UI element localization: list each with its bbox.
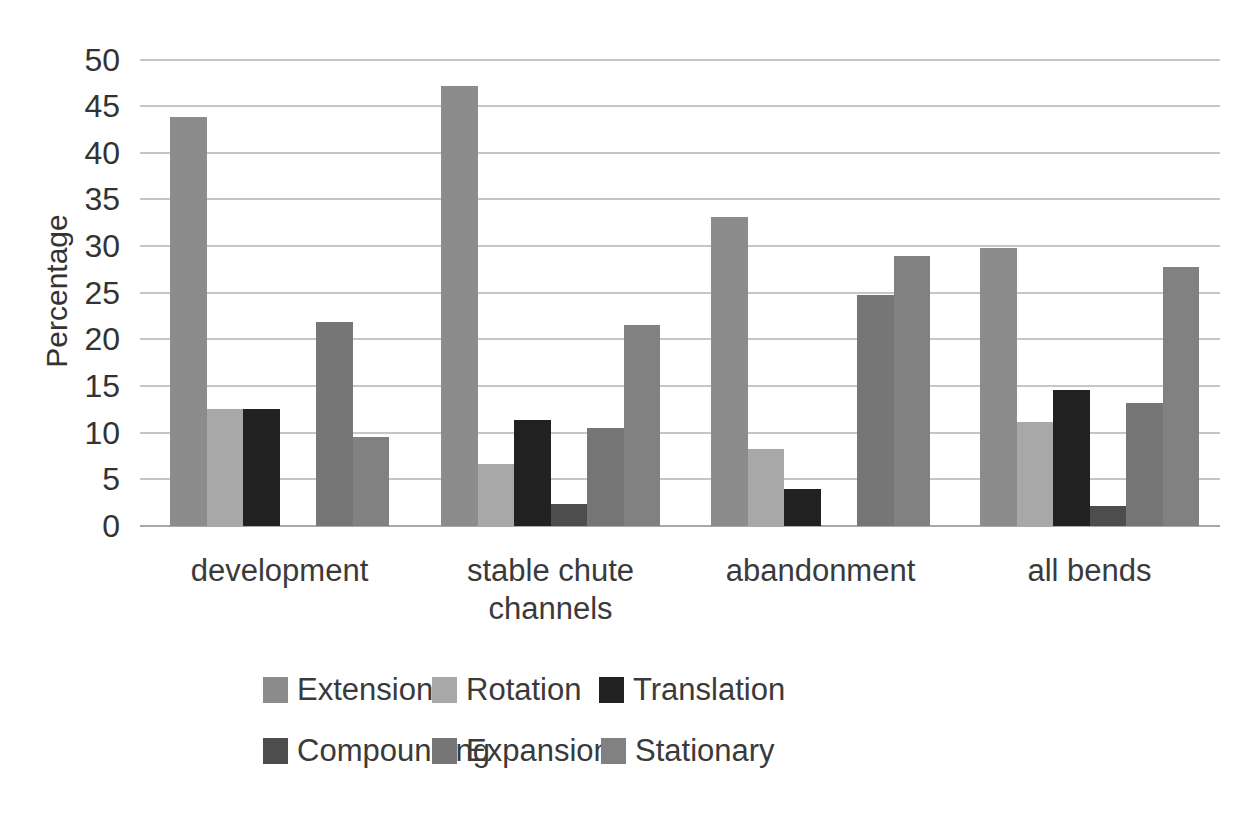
bar-rotation-group2: [478, 464, 515, 526]
legend-swatch-icon: [601, 738, 626, 764]
bar-rotation-group1: [207, 409, 244, 526]
legend-label: Translation: [633, 672, 785, 708]
y-tick-label: 15: [58, 369, 120, 403]
bar-rotation-group4: [1017, 422, 1054, 526]
bar-translation-group2: [514, 420, 551, 526]
bar-expansion-group4: [1126, 403, 1163, 526]
bar-extension-group2: [441, 86, 478, 526]
legend-swatch-icon: [432, 738, 457, 764]
x-category-label: all bends: [970, 552, 1210, 590]
bar-extension-group3: [711, 217, 748, 526]
x-category-label: development: [160, 552, 400, 590]
y-tick-label: 0: [58, 509, 120, 543]
x-category-label: abandonment: [701, 552, 941, 590]
legend-item-expansion: Expansion: [432, 733, 611, 769]
legend-item-stationary: Stationary: [601, 733, 775, 769]
bar-rotation-group3: [748, 449, 785, 526]
legend-item-translation: Translation: [599, 672, 785, 708]
y-tick-label: 45: [58, 89, 120, 123]
y-tick-label: 10: [58, 416, 120, 450]
legend-label: Extension: [297, 672, 433, 708]
bar-compounding-group2: [551, 504, 588, 526]
y-gridline: [140, 105, 1220, 107]
y-gridline: [140, 59, 1220, 61]
y-gridline: [140, 385, 1220, 387]
bar-translation-group3: [784, 489, 821, 526]
y-gridline: [140, 245, 1220, 247]
legend-label: Rotation: [466, 672, 581, 708]
y-gridline: [140, 152, 1220, 154]
x-category-label: stable chute channels: [431, 552, 671, 628]
legend-swatch-icon: [432, 677, 457, 703]
y-tick-label: 25: [58, 276, 120, 310]
bar-expansion-group1: [316, 322, 353, 526]
y-gridline: [140, 292, 1220, 294]
bar-compounding-group4: [1090, 506, 1127, 526]
legend-label: Expansion: [466, 733, 611, 769]
legend-item-rotation: Rotation: [432, 672, 581, 708]
bar-expansion-group2: [587, 428, 624, 526]
y-tick-label: 5: [58, 462, 120, 496]
bar-extension-group4: [980, 248, 1017, 526]
y-tick-label: 30: [58, 229, 120, 263]
legend-swatch-icon: [263, 738, 288, 764]
legend-swatch-icon: [599, 677, 624, 703]
y-gridline: [140, 198, 1220, 200]
legend-label: Stationary: [635, 733, 775, 769]
bar-expansion-group3: [857, 295, 894, 526]
legend-item-extension: Extension: [263, 672, 433, 708]
legend-swatch-icon: [263, 677, 288, 703]
y-gridline: [140, 338, 1220, 340]
y-tick-label: 50: [58, 43, 120, 77]
bar-stationary-group4: [1163, 267, 1200, 526]
bar-chart-figure: Percentage 05101520253035404550developme…: [0, 0, 1260, 818]
y-tick-label: 35: [58, 182, 120, 216]
y-tick-label: 40: [58, 136, 120, 170]
bar-extension-group1: [170, 117, 207, 526]
bar-translation-group4: [1053, 390, 1090, 526]
bar-translation-group1: [243, 409, 280, 526]
y-tick-label: 20: [58, 322, 120, 356]
bar-stationary-group3: [894, 256, 931, 526]
bar-stationary-group2: [624, 325, 661, 526]
bar-stationary-group1: [353, 437, 390, 526]
